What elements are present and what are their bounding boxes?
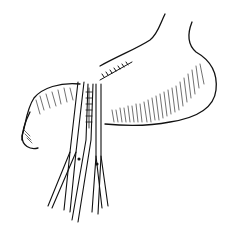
suture-line [100,62,132,80]
surgical-illustration [0,0,232,242]
hatching [24,64,204,143]
clamp-left [48,82,93,222]
stomach-outline [22,14,216,149]
